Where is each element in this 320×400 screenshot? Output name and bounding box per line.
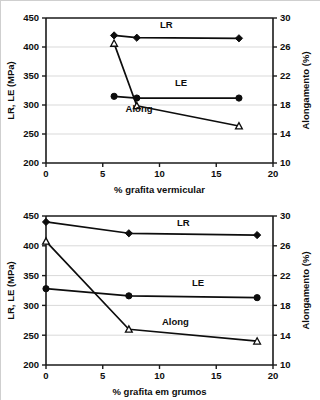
series-label-lr: LR <box>160 19 173 30</box>
data-point <box>43 286 49 292</box>
y-axis-left: 200250300350400450 <box>23 12 46 168</box>
y2-tick-label: 18 <box>280 99 291 110</box>
y-axis-right: 101418222630 <box>273 210 291 370</box>
gridlines <box>46 47 273 134</box>
figure-page: 20025030035040045010141822263005101520% … <box>0 0 320 400</box>
data-point <box>126 293 132 299</box>
x-tick-label: 0 <box>43 370 48 381</box>
series-label-le: LE <box>175 77 187 88</box>
data-point <box>42 218 49 225</box>
series-label-along: Along <box>162 316 189 327</box>
y-tick-label: 400 <box>23 41 39 52</box>
data-point <box>133 34 140 41</box>
y2-tick-label: 30 <box>280 210 291 221</box>
y2-tick-label: 26 <box>280 41 291 52</box>
y2-axis-title: Alongamento (%) <box>300 51 311 129</box>
data-point <box>254 231 261 238</box>
series-label-le: LE <box>192 277 204 288</box>
data-point <box>43 238 50 244</box>
y-tick-label: 350 <box>23 270 39 281</box>
y-tick-label: 250 <box>23 330 39 341</box>
y2-axis-title: Alongamento (%) <box>300 251 311 329</box>
x-axis-title: % grafita vermicular <box>114 184 205 195</box>
data-point <box>111 32 118 39</box>
data-point <box>235 35 242 42</box>
y2-tick-label: 14 <box>280 128 291 139</box>
y-axis-left: 200250300350400450 <box>23 210 46 370</box>
y-tick-label: 300 <box>23 300 39 311</box>
x-tick-label: 15 <box>211 168 222 179</box>
y-axis-title: LR, LE (MPa) <box>5 61 16 120</box>
y-axis-right: 101418222630 <box>273 12 291 168</box>
data-point <box>111 93 117 99</box>
data-point <box>254 295 260 301</box>
series-line <box>46 222 257 235</box>
data-point <box>111 40 118 46</box>
y-tick-label: 450 <box>23 12 39 23</box>
series-le: LE <box>43 277 260 301</box>
y-tick-label: 450 <box>23 210 39 221</box>
y2-tick-label: 22 <box>280 270 291 281</box>
y-axis-title: LR, LE (MPa) <box>5 261 16 320</box>
y-tick-label: 400 <box>23 240 39 251</box>
x-axis: 05101520 <box>43 365 278 381</box>
chart-grafita-em-grumos: 20025030035040045010141822263005101520% … <box>1 199 320 400</box>
plot-top: 20025030035040045010141822263005101520% … <box>1 1 320 199</box>
series-label-along: Along <box>126 103 153 114</box>
plot-bottom: 20025030035040045010141822263005101520% … <box>1 199 320 400</box>
data-point <box>125 230 132 237</box>
y-tick-label: 350 <box>23 70 39 81</box>
y2-tick-label: 14 <box>280 330 291 341</box>
x-tick-label: 5 <box>100 168 106 179</box>
y2-tick-label: 18 <box>280 300 291 311</box>
x-tick-label: 0 <box>43 168 48 179</box>
x-tick-label: 10 <box>154 370 165 381</box>
x-tick-label: 20 <box>268 168 279 179</box>
data-point <box>236 95 242 101</box>
series-lr: LR <box>42 217 260 239</box>
x-axis-title: % grafita em grumos <box>113 386 207 397</box>
data-point <box>254 338 261 344</box>
y2-tick-label: 22 <box>280 70 291 81</box>
x-tick-label: 20 <box>268 370 279 381</box>
x-axis: 05101520 <box>43 163 278 179</box>
series-line <box>46 289 257 298</box>
data-point <box>236 123 243 129</box>
x-tick-label: 15 <box>211 370 222 381</box>
x-tick-label: 10 <box>154 168 165 179</box>
y-tick-label: 300 <box>23 99 39 110</box>
series-lr: LR <box>111 19 243 41</box>
y2-tick-label: 10 <box>280 359 291 370</box>
axes <box>46 216 273 365</box>
series-label-lr: LR <box>177 217 190 228</box>
y-tick-label: 200 <box>23 157 39 168</box>
gridlines <box>46 246 273 335</box>
chart-grafita-vermicular: 20025030035040045010141822263005101520% … <box>1 1 320 199</box>
y-tick-label: 250 <box>23 128 39 139</box>
y-tick-label: 200 <box>23 359 39 370</box>
y2-tick-label: 30 <box>280 12 291 23</box>
x-tick-label: 5 <box>100 370 106 381</box>
y2-tick-label: 10 <box>280 157 291 168</box>
y2-tick-label: 26 <box>280 240 291 251</box>
